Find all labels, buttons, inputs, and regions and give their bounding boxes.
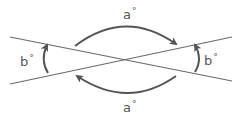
- label-right-angle: b°: [204, 53, 218, 67]
- label-top-var: a: [123, 7, 131, 22]
- bottom-arc-arrow: [77, 76, 176, 93]
- label-bottom-angle: a°: [123, 100, 136, 114]
- degree-symbol: °: [132, 6, 137, 16]
- right-arc-arrow: [195, 45, 199, 72]
- label-left-angle: b°: [20, 54, 34, 68]
- label-right-var: b: [204, 53, 212, 68]
- label-bottom-var: a: [123, 100, 131, 115]
- label-left-var: b: [20, 54, 28, 69]
- left-arc-arrow: [44, 45, 48, 73]
- label-top-angle: a°: [123, 7, 136, 21]
- degree-symbol: °: [132, 99, 137, 109]
- degree-symbol: °: [29, 53, 34, 63]
- degree-symbol: °: [213, 52, 218, 62]
- top-arc-arrow: [75, 26, 176, 46]
